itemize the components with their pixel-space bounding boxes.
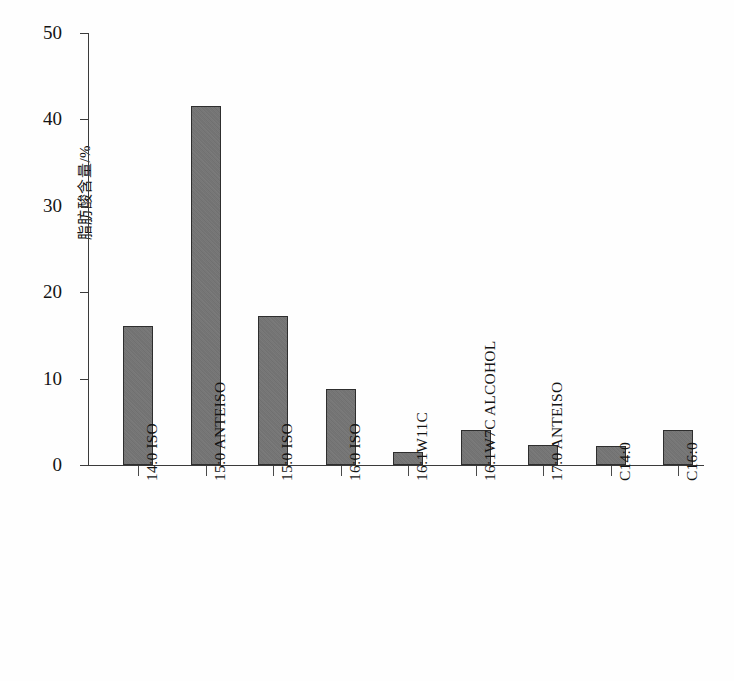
- x-axis-category-label: 16:1W11C: [414, 412, 430, 481]
- y-axis-line: [88, 33, 89, 466]
- y-axis-tick-label: 40: [16, 109, 62, 128]
- y-axis-tick: [80, 379, 89, 380]
- y-axis-tick-label: 50: [16, 23, 62, 42]
- x-axis-tick: [408, 466, 409, 476]
- x-axis-line: [88, 465, 704, 466]
- x-axis-tick: [273, 466, 274, 476]
- y-axis-tick-label: 0: [16, 455, 62, 474]
- y-axis-label: 脂肪酸含量/%: [73, 128, 94, 258]
- y-axis-tick: [80, 206, 89, 207]
- x-axis-category-label: C16:0: [684, 442, 700, 481]
- x-axis-category-label: 14:0 ISO: [144, 423, 160, 481]
- x-axis-category-label: C14:0: [617, 442, 633, 481]
- y-axis-tick: [80, 292, 89, 293]
- x-axis-tick: [611, 466, 612, 476]
- x-axis-category-label: 15:0 ISO: [279, 423, 295, 481]
- bar-chart-figure: 脂肪酸含量/% 01020304050 14:0 ISO15:0 ANTEISO…: [0, 0, 734, 681]
- x-axis-tick: [543, 466, 544, 476]
- y-axis-tick-label: 10: [16, 369, 62, 388]
- x-axis-tick: [678, 466, 679, 476]
- y-axis-tick: [80, 119, 89, 120]
- x-axis-tick: [476, 466, 477, 476]
- x-axis-tick: [341, 466, 342, 476]
- x-axis-category-label: 17:0 ANTEISO: [549, 382, 565, 481]
- x-axis-tick: [138, 466, 139, 476]
- x-axis-category-label: 16:0 ISO: [347, 423, 363, 481]
- y-axis-tick-label: 30: [16, 196, 62, 215]
- x-axis-category-label: 16:1W7C ALCOHOL: [482, 341, 498, 481]
- y-axis-tick-label: 20: [16, 282, 62, 301]
- x-axis-tick: [206, 466, 207, 476]
- y-axis-tick: [80, 33, 89, 34]
- x-axis-category-label: 15:0 ANTEISO: [212, 382, 228, 481]
